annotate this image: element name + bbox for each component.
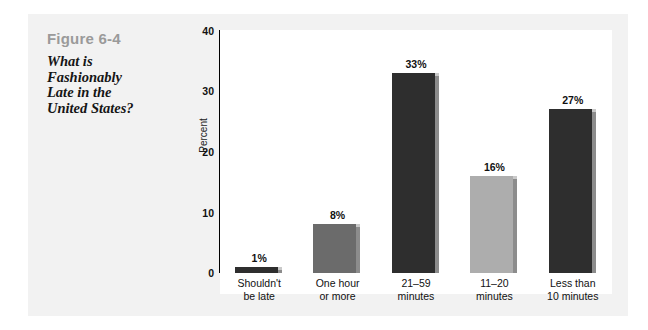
x-axis-labels: Shouldn't be late One hour or more 21–59… bbox=[220, 277, 612, 307]
x-label-1-line-1: One hour bbox=[298, 277, 376, 290]
bar-value-0: 1% bbox=[220, 252, 298, 264]
bar-top-shade-1 bbox=[356, 224, 360, 227]
x-label-0: Shouldn't be late bbox=[220, 277, 298, 303]
bar-body-0 bbox=[235, 267, 278, 273]
y-tick-30: 30 bbox=[192, 86, 214, 96]
bar-shadow-3 bbox=[513, 176, 517, 273]
bar-body-2 bbox=[392, 73, 435, 274]
bar-top-shade-4 bbox=[592, 109, 596, 112]
x-label-1-line-2: or more bbox=[298, 290, 376, 303]
bar-0[interactable] bbox=[235, 267, 282, 273]
bar-slot-one-hour-or-more: 8% bbox=[298, 30, 376, 273]
bar-body-3 bbox=[470, 176, 513, 273]
bar-slot-11-20-minutes: 16% bbox=[455, 30, 533, 273]
bar-body-4 bbox=[549, 109, 592, 273]
x-label-0-line-1: Shouldn't bbox=[220, 277, 298, 290]
y-tick-0: 0 bbox=[192, 268, 214, 278]
bar-top-shade-3 bbox=[513, 176, 517, 179]
bar-3[interactable] bbox=[470, 176, 517, 273]
x-label-2: 21–59 minutes bbox=[377, 277, 455, 303]
bar-value-1: 8% bbox=[298, 209, 376, 221]
x-label-2-line-2: minutes bbox=[377, 290, 455, 303]
bar-top-shade-0 bbox=[278, 267, 282, 270]
bar-value-3: 16% bbox=[455, 161, 533, 173]
bar-shadow-2 bbox=[435, 73, 439, 274]
bar-value-4: 27% bbox=[534, 94, 612, 106]
figure-title: What is Fashionably Late in the United S… bbox=[47, 54, 187, 116]
figure-number: Figure 6-4 bbox=[47, 30, 187, 48]
bar-shadow-1 bbox=[356, 224, 360, 273]
x-label-3-line-1: 11–20 bbox=[455, 277, 533, 290]
bar-group: 1% 8% 33% bbox=[220, 30, 612, 273]
figure-caption-block: Figure 6-4 What is Fashionably Late in t… bbox=[47, 30, 187, 116]
bar-2[interactable] bbox=[392, 73, 439, 274]
x-label-4-line-1: Less than bbox=[534, 277, 612, 290]
y-tick-20: 20 bbox=[192, 147, 214, 157]
bar-body-1 bbox=[313, 224, 356, 273]
x-label-0-line-2: be late bbox=[220, 290, 298, 303]
figure-title-line-4: United States? bbox=[47, 101, 187, 117]
x-label-3: 11–20 minutes bbox=[455, 277, 533, 303]
x-label-4: Less than 10 minutes bbox=[534, 277, 612, 303]
y-tick-40: 40 bbox=[192, 26, 214, 36]
figure-title-line-3: Late in the bbox=[47, 85, 187, 101]
x-label-1: One hour or more bbox=[298, 277, 376, 303]
bar-slot-less-than-10-minutes: 27% bbox=[534, 30, 612, 273]
x-label-4-line-2: 10 minutes bbox=[534, 290, 612, 303]
x-label-2-line-1: 21–59 bbox=[377, 277, 455, 290]
x-label-3-line-2: minutes bbox=[455, 290, 533, 303]
figure-title-line-2: Fashionably bbox=[47, 70, 187, 86]
bar-slot-21-59-minutes: 33% bbox=[377, 30, 455, 273]
bar-1[interactable] bbox=[313, 224, 360, 273]
figure-title-line-1: What is bbox=[47, 54, 187, 70]
figure-root: Figure 6-4 What is Fashionably Late in t… bbox=[0, 0, 648, 330]
bar-slot-shouldnt-be-late: 1% bbox=[220, 30, 298, 273]
y-axis-label: Percent bbox=[198, 91, 209, 181]
chart-plot: Percent 40 30 20 10 0 1% 8% bbox=[196, 22, 614, 310]
bar-value-2: 33% bbox=[377, 58, 455, 70]
y-tick-10: 10 bbox=[192, 208, 214, 218]
bar-shadow-4 bbox=[592, 109, 596, 273]
bar-4[interactable] bbox=[549, 109, 596, 273]
bar-top-shade-2 bbox=[435, 73, 439, 76]
